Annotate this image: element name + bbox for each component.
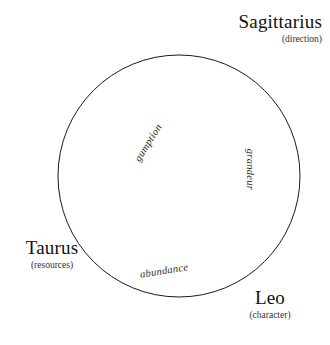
sign-name-sagittarius: Sagittarius	[186, 12, 322, 32]
sign-name-leo: Leo	[220, 288, 320, 308]
sign-name-taurus: Taurus	[6, 238, 98, 258]
sign-keyword-taurus: (resources)	[6, 260, 98, 270]
sign-keyword-sagittarius: (direction)	[186, 34, 322, 44]
sign-label-leo: Leo (character)	[220, 288, 320, 320]
sign-label-sagittarius: Sagittarius (direction)	[186, 12, 322, 44]
inner-word-grandeur: grandeur	[245, 141, 256, 199]
sign-keyword-leo: (character)	[220, 310, 320, 320]
zodiac-circle-diagram: Sagittarius (direction) Taurus (resource…	[0, 0, 330, 345]
sign-label-taurus: Taurus (resources)	[6, 238, 98, 270]
